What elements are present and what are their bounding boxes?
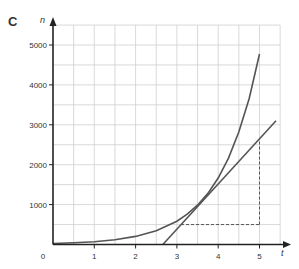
- grid: [53, 25, 280, 244]
- y-tick-label: 3000: [29, 121, 47, 130]
- x-tick-label: 1: [92, 252, 97, 261]
- x-tick-label: 2: [133, 252, 138, 261]
- x-axis-ticks: 012345: [41, 245, 263, 261]
- y-tick-label: 2000: [29, 161, 47, 170]
- panel-label: C: [8, 14, 18, 29]
- axes: [50, 17, 292, 248]
- chart: C 10002000300040005000 012345 n t: [0, 0, 299, 269]
- x-axis-label: t: [281, 248, 284, 258]
- y-tick-label: 4000: [29, 81, 47, 90]
- x-tick-label: 0: [41, 252, 46, 261]
- y-tick-label: 5000: [29, 41, 47, 50]
- y-axis-label: n: [40, 15, 45, 25]
- y-tick-label: 1000: [29, 201, 47, 210]
- x-tick-label: 4: [216, 252, 221, 261]
- x-tick-label: 3: [175, 252, 180, 261]
- x-tick-label: 5: [257, 252, 262, 261]
- y-axis-ticks: 10002000300040005000: [29, 41, 53, 210]
